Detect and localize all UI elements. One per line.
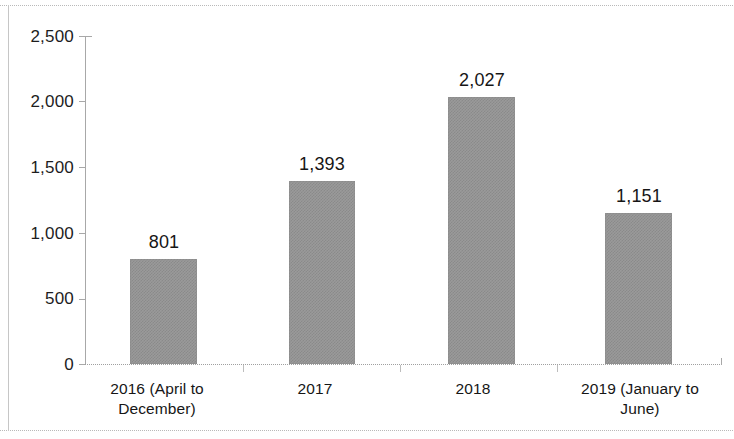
bar-value-2016: 801 bbox=[114, 232, 214, 253]
y-tick-label-2000: 2,000 bbox=[0, 92, 74, 112]
bar-2019 bbox=[605, 213, 672, 364]
x-axis-line bbox=[85, 364, 722, 365]
y-tick-mark-1500 bbox=[79, 167, 85, 168]
x-category-label-2019: 2019 (January to June) bbox=[557, 379, 723, 419]
x-axis-separator-2 bbox=[400, 365, 401, 372]
y-tick-label-1500: 1,500 bbox=[0, 158, 74, 178]
frame-bottom-border bbox=[0, 430, 734, 431]
bar-2016 bbox=[130, 259, 197, 364]
x-category-label-2016: 2016 (April to December) bbox=[77, 379, 237, 419]
y-tick-mark-0 bbox=[79, 364, 85, 365]
frame-top-border bbox=[0, 5, 734, 6]
y-tick-mark-2000 bbox=[79, 101, 85, 102]
x-category-label-2018: 2018 bbox=[400, 379, 546, 399]
x-category-label-2017: 2017 bbox=[242, 379, 388, 399]
y-tick-mark-1000 bbox=[79, 233, 85, 234]
x-axis-separator-3 bbox=[557, 365, 558, 372]
bar-value-2019: 1,151 bbox=[589, 186, 689, 207]
y-axis-top-cap bbox=[85, 36, 92, 37]
bar-2018 bbox=[448, 97, 515, 364]
bar-chart: 2,500 2,000 1,500 1,000 500 0 801 1,393 … bbox=[0, 0, 734, 439]
bar-value-2017: 1,393 bbox=[272, 154, 372, 175]
bar-value-2018: 2,027 bbox=[432, 70, 532, 91]
y-tick-mark-2500 bbox=[79, 36, 85, 37]
y-tick-label-0: 0 bbox=[0, 355, 74, 375]
y-tick-mark-500 bbox=[79, 299, 85, 300]
y-tick-label-1000: 1,000 bbox=[0, 224, 74, 244]
plot-area: 801 1,393 2,027 1,151 bbox=[85, 36, 722, 365]
x-axis-separator-1 bbox=[243, 365, 244, 372]
bar-2017 bbox=[289, 181, 355, 364]
y-axis-line bbox=[85, 36, 86, 365]
y-tick-label-2500: 2,500 bbox=[0, 27, 74, 47]
x-axis-right-cap bbox=[721, 358, 722, 365]
y-tick-label-500: 500 bbox=[0, 289, 74, 309]
